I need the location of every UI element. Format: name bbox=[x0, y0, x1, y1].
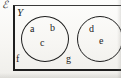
euler-diagram-figure: ℰ Y a b c d e f g bbox=[0, 0, 121, 78]
element-label-e: e bbox=[99, 36, 103, 46]
scan-edge-shadow-bottom bbox=[0, 73, 121, 78]
set-circle-left bbox=[21, 16, 69, 62]
element-label-g: g bbox=[66, 54, 71, 64]
universal-set-symbol: ℰ bbox=[2, 0, 8, 11]
element-label-b: b bbox=[50, 23, 55, 33]
scan-edge-shadow-right bbox=[117, 0, 121, 78]
element-label-a: a bbox=[30, 24, 34, 34]
set-label-y: Y bbox=[17, 6, 23, 18]
element-label-c: c bbox=[40, 38, 44, 48]
element-label-f: f bbox=[16, 54, 19, 64]
element-label-d: d bbox=[89, 24, 94, 34]
